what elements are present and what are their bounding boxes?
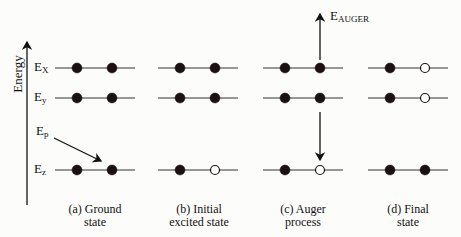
incident-energy-label: Ep: [36, 123, 48, 139]
electron-icon: [385, 93, 395, 103]
panel-b-caption: (b) Initialexcited state: [158, 203, 240, 229]
electron-icon: [315, 63, 325, 73]
hole-icon: [316, 166, 325, 175]
electron-icon: [107, 93, 117, 103]
electron-icon: [175, 63, 185, 73]
panel-a-caption: (a) Groundstate: [55, 203, 135, 229]
electron-icon: [175, 165, 185, 175]
hole-icon: [421, 94, 430, 103]
electron-icon: [385, 165, 395, 175]
energy-axis-label: Energy: [10, 52, 26, 96]
electron-icon: [72, 63, 82, 73]
electron-icon: [210, 63, 220, 73]
electron-icon: [72, 93, 82, 103]
electron-icon: [107, 63, 117, 73]
electron-icon: [175, 93, 185, 103]
level-label-ey: Ey: [34, 89, 46, 105]
electron-icon: [385, 63, 395, 73]
auger-diagram: Energy EX Ey Ez Ep EAUGER (a) Groundstat…: [0, 0, 461, 237]
electron-icon: [107, 165, 117, 175]
electron-icon: [72, 165, 82, 175]
hole-icon: [211, 166, 220, 175]
level-label-ez: Ez: [34, 161, 46, 177]
electron-icon: [280, 63, 290, 73]
incident-arrow: [54, 138, 101, 161]
electron-icon: [280, 165, 290, 175]
electron-icon: [280, 93, 290, 103]
panel-c-caption: (c) Augerprocess: [263, 203, 343, 229]
panel-d-caption: (d) Finalstate: [368, 203, 448, 229]
level-label-ex: EX: [34, 59, 48, 75]
electron-icon: [420, 165, 430, 175]
electron-icon: [210, 93, 220, 103]
auger-energy-label: EAUGER: [330, 8, 369, 24]
hole-icon: [421, 64, 430, 73]
electron-icon: [315, 93, 325, 103]
